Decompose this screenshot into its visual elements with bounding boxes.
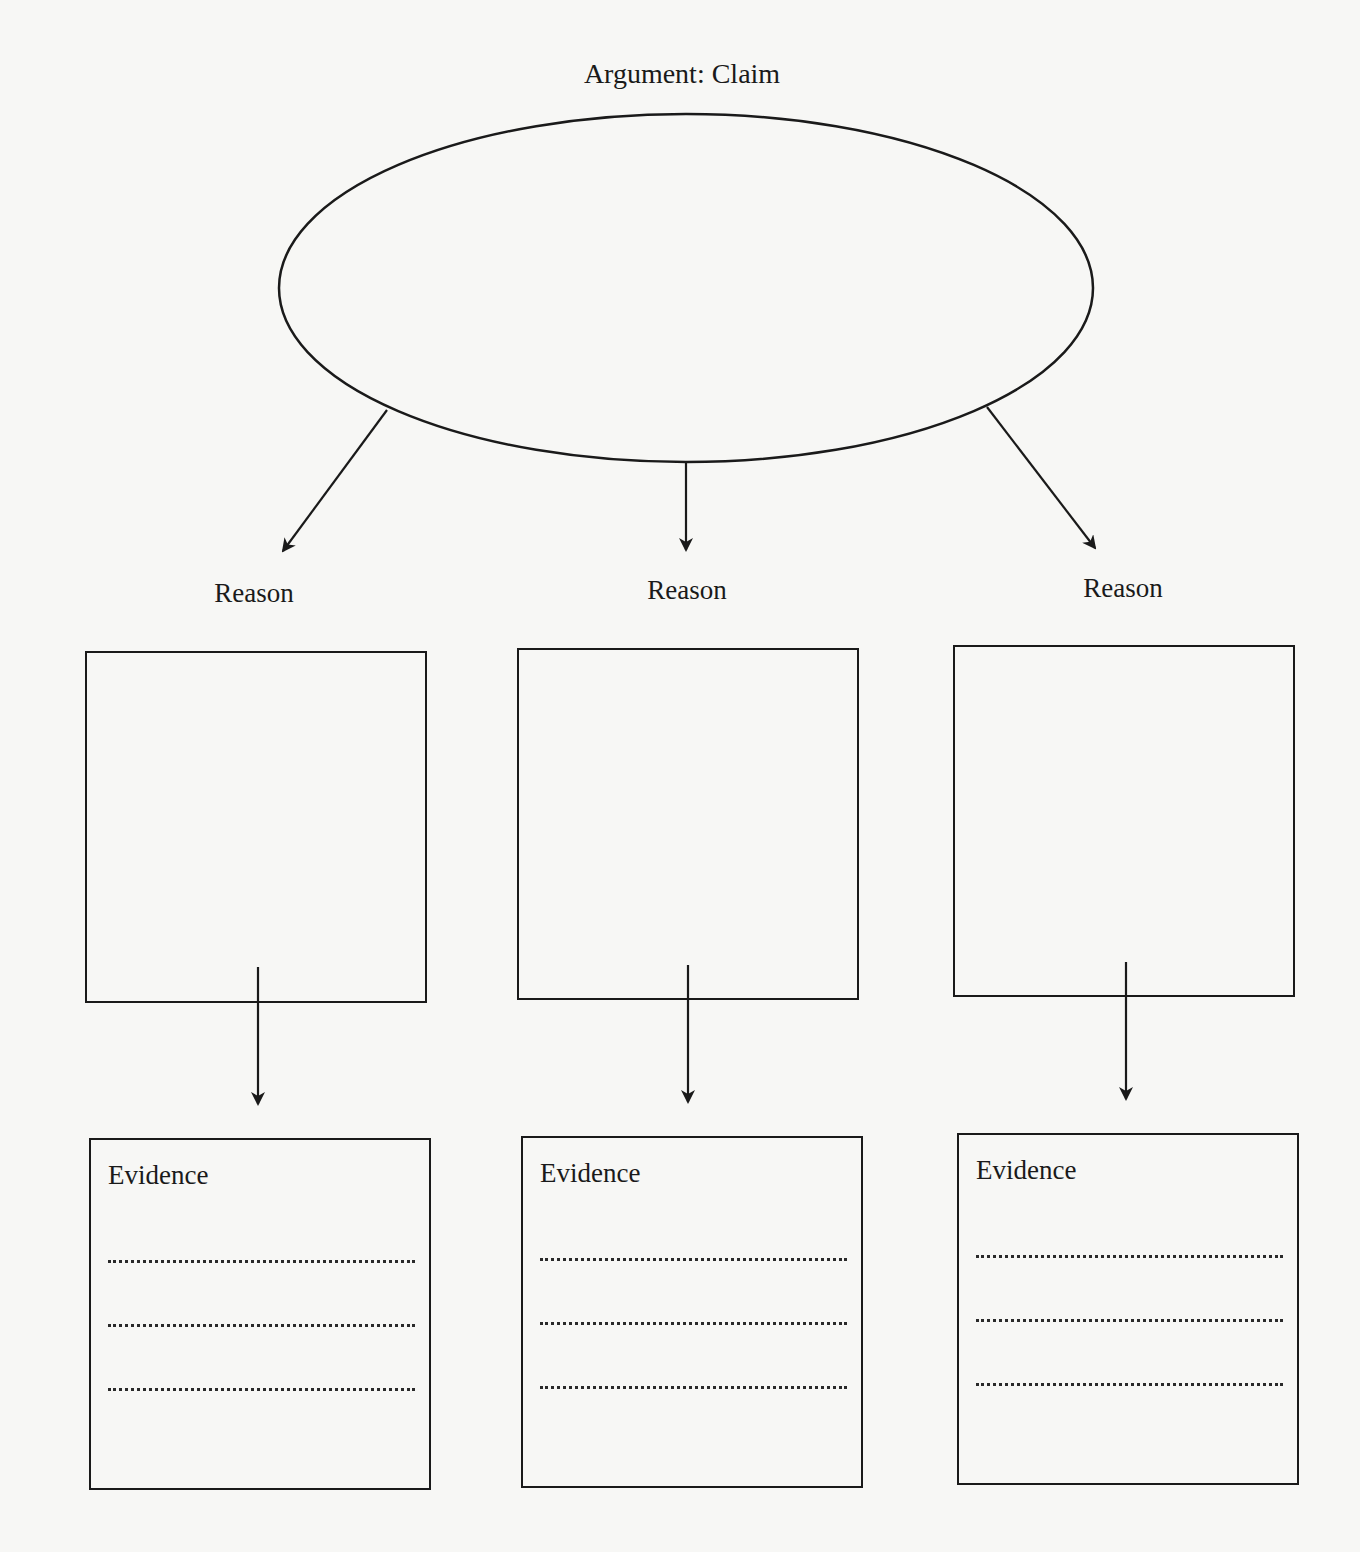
evidence-box-2[interactable]: Evidence (521, 1136, 863, 1488)
evidence-line[interactable] (540, 1322, 847, 1325)
evidence-line[interactable] (540, 1258, 847, 1261)
claim-ellipse[interactable] (279, 114, 1093, 462)
evidence-line[interactable] (976, 1383, 1283, 1386)
evidence-box-1[interactable]: Evidence (89, 1138, 431, 1490)
evidence-box-3[interactable]: Evidence (957, 1133, 1299, 1485)
evidence-line[interactable] (976, 1319, 1283, 1322)
reason-label-1: Reason (154, 578, 354, 609)
evidence-line[interactable] (108, 1388, 415, 1391)
evidence-line[interactable] (108, 1260, 415, 1263)
evidence-line[interactable] (108, 1324, 415, 1327)
reason-box-3[interactable] (953, 645, 1295, 997)
reason-label-2: Reason (587, 575, 787, 606)
evidence-line[interactable] (976, 1255, 1283, 1258)
reason-box-2[interactable] (517, 648, 859, 1000)
evidence-label-3: Evidence (976, 1155, 1076, 1186)
evidence-label-2: Evidence (540, 1158, 640, 1189)
evidence-label-1: Evidence (108, 1160, 208, 1191)
arrow-claim-to-reason-3 (987, 407, 1095, 548)
diagram-title: Argument: Claim (2, 58, 1360, 90)
evidence-line[interactable] (540, 1386, 847, 1389)
reason-box-1[interactable] (85, 651, 427, 1003)
arrow-claim-to-reason-1 (283, 410, 387, 551)
reason-label-3: Reason (1023, 573, 1223, 604)
